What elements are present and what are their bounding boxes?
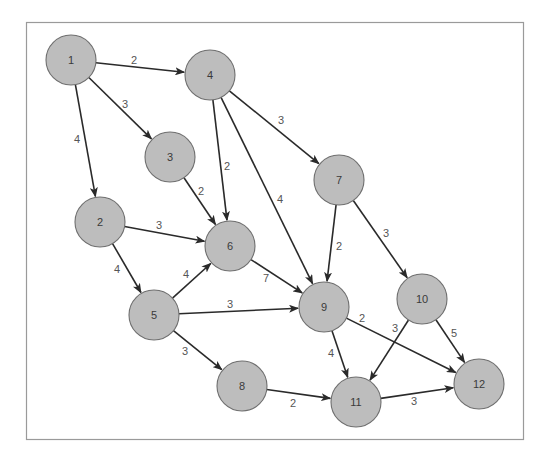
node-label: 4	[207, 69, 213, 81]
node-label: 11	[350, 396, 361, 408]
edge-weight-label: 4	[277, 193, 283, 205]
edge-weight-label: 5	[451, 327, 457, 339]
graph-node-8: 8	[217, 361, 267, 411]
node-label: 9	[321, 301, 327, 313]
node-label: 1	[68, 54, 74, 66]
edge-weight-label: 3	[383, 227, 389, 239]
edge-weight-label: 4	[328, 347, 334, 359]
edge-weight-label: 3	[156, 219, 162, 231]
node-label: 8	[239, 380, 245, 392]
graph-diagram: 234243234433723423523 123456789101112	[0, 0, 546, 458]
graph-node-9: 9	[299, 282, 349, 332]
node-label: 10	[416, 293, 428, 305]
edge-weight-label: 3	[411, 395, 417, 407]
graph-node-4: 4	[185, 50, 235, 100]
edge-weight-label: 4	[114, 263, 120, 275]
graph-node-12: 12	[454, 359, 504, 409]
graph-node-6: 6	[205, 221, 255, 271]
edge-weight-label: 2	[224, 160, 230, 172]
graph-node-2: 2	[75, 197, 125, 247]
graph-node-10: 10	[397, 274, 447, 324]
edge-weight-label: 2	[359, 312, 365, 324]
edge-weight-label: 2	[290, 397, 296, 409]
node-label: 2	[97, 216, 103, 228]
edge-weight-label: 3	[182, 345, 188, 357]
graph-node-1: 1	[46, 35, 96, 85]
edge-weight-label: 3	[392, 322, 398, 334]
edge-weight-label: 4	[74, 133, 80, 145]
node-label: 7	[336, 174, 342, 186]
graph-node-5: 5	[129, 290, 179, 340]
graph-node-7: 7	[314, 155, 364, 205]
edge-weight-label: 3	[227, 298, 233, 310]
edge-weight-label: 2	[198, 185, 204, 197]
node-label: 3	[167, 151, 173, 163]
edge-weight-label: 7	[263, 272, 269, 284]
graph-node-3: 3	[145, 132, 195, 182]
edge-weight-label: 2	[336, 240, 342, 252]
edge-weight-label: 3	[122, 98, 128, 110]
edge-weight-label: 3	[278, 114, 284, 126]
edge-weight-label: 4	[183, 268, 189, 280]
graph-node-11: 11	[331, 377, 381, 427]
node-label: 12	[473, 378, 485, 390]
edge-weight-label: 2	[131, 54, 137, 66]
node-label: 6	[227, 240, 233, 252]
node-label: 5	[151, 309, 157, 321]
